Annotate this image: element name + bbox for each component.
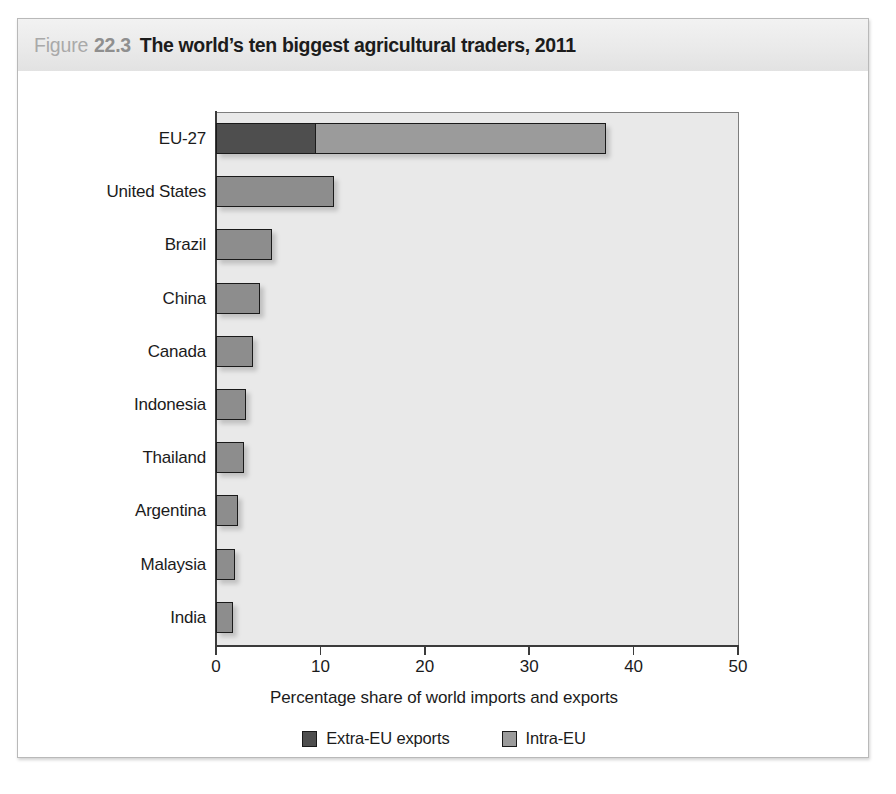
bar-row: China bbox=[18, 272, 869, 325]
bar-row: Argentina bbox=[18, 484, 869, 537]
x-tick-label-10: 10 bbox=[290, 657, 350, 677]
bar-brazil bbox=[216, 229, 272, 260]
figure-title: The world’s ten biggest agricultural tra… bbox=[140, 34, 576, 57]
chart-canvas: EU-27United StatesBrazilChinaCanadaIndon… bbox=[18, 71, 869, 758]
bar-segment-total bbox=[216, 229, 272, 260]
bar-malaysia bbox=[216, 549, 235, 580]
bar-segment-total bbox=[216, 176, 334, 207]
category-label-china: China bbox=[17, 272, 206, 325]
bar-row: United States bbox=[18, 165, 869, 218]
category-label-canada: Canada bbox=[17, 325, 206, 378]
x-tick-mark-20 bbox=[424, 646, 426, 655]
bar-segment-total bbox=[216, 495, 238, 526]
bar-segment-total bbox=[216, 389, 246, 420]
legend-label-intra: Intra-EU bbox=[526, 729, 586, 748]
bar-china bbox=[216, 283, 260, 314]
bar-row: India bbox=[18, 591, 869, 644]
bar-segment-total bbox=[216, 602, 233, 633]
x-tick-mark-30 bbox=[528, 646, 530, 655]
x-tick-label-30: 30 bbox=[499, 657, 559, 677]
bar-row: Thailand bbox=[18, 431, 869, 484]
bar-segment-total bbox=[216, 283, 260, 314]
bar-argentina bbox=[216, 495, 238, 526]
x-tick-label-40: 40 bbox=[604, 657, 664, 677]
bar-row: Malaysia bbox=[18, 538, 869, 591]
x-tick-mark-0 bbox=[215, 646, 217, 655]
bar-row: EU-27 bbox=[18, 112, 869, 165]
figure-container: Figure 22.3 The world’s ten biggest agri… bbox=[17, 18, 869, 758]
legend-swatch-intra bbox=[502, 731, 517, 747]
bar-indonesia bbox=[216, 389, 246, 420]
bar-row: Brazil bbox=[18, 218, 869, 271]
bar-segment-total bbox=[216, 336, 253, 367]
category-label-malaysia: Malaysia bbox=[17, 538, 206, 591]
bar-united-states bbox=[216, 176, 334, 207]
bar-row: Canada bbox=[18, 325, 869, 378]
x-tick-label-0: 0 bbox=[186, 657, 246, 677]
bar-eu-27 bbox=[216, 123, 606, 154]
figure-label-word: Figure bbox=[34, 34, 88, 57]
bar-row: Indonesia bbox=[18, 378, 869, 431]
figure-title-band: Figure 22.3 The world’s ten biggest agri… bbox=[18, 19, 868, 71]
category-label-eu-27: EU-27 bbox=[17, 112, 206, 165]
chart-legend: Extra-EU exportsIntra-EU bbox=[18, 729, 869, 748]
category-label-india: India bbox=[17, 591, 206, 644]
category-label-thailand: Thailand bbox=[17, 431, 206, 484]
bar-thailand bbox=[216, 442, 244, 473]
x-tick-mark-40 bbox=[633, 646, 635, 655]
legend-item-intra[interactable]: Intra-EU bbox=[502, 729, 586, 748]
legend-swatch-extra bbox=[302, 731, 317, 747]
category-label-argentina: Argentina bbox=[17, 484, 206, 537]
x-tick-label-50: 50 bbox=[708, 657, 768, 677]
category-label-united-states: United States bbox=[17, 165, 206, 218]
value-axis-line bbox=[215, 645, 739, 647]
legend-item-extra[interactable]: Extra-EU exports bbox=[302, 729, 449, 748]
bar-segment-intra-eu bbox=[315, 123, 606, 154]
bar-segment-extra-eu-exports bbox=[216, 123, 316, 154]
category-label-brazil: Brazil bbox=[17, 218, 206, 271]
x-tick-mark-10 bbox=[320, 646, 322, 655]
bar-canada bbox=[216, 336, 253, 367]
bar-india bbox=[216, 602, 233, 633]
x-axis-title: Percentage share of world imports and ex… bbox=[18, 688, 869, 708]
legend-label-extra: Extra-EU exports bbox=[326, 729, 449, 748]
bar-segment-total bbox=[216, 549, 235, 580]
bar-segment-total bbox=[216, 442, 244, 473]
x-tick-mark-50 bbox=[737, 646, 739, 655]
x-tick-label-20: 20 bbox=[395, 657, 455, 677]
category-label-indonesia: Indonesia bbox=[17, 378, 206, 431]
figure-number: 22.3 bbox=[94, 34, 131, 57]
